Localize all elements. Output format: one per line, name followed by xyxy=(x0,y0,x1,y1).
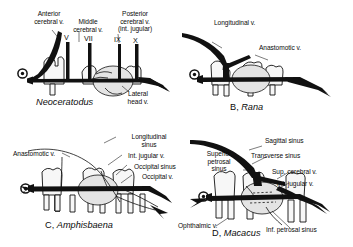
label-internal-jugular-vein-d: Int. jugular v. xyxy=(277,180,314,188)
panel-d-caption-taxon: Macacus xyxy=(224,228,261,238)
panel-d-caption: D, Macacus xyxy=(212,228,261,238)
panel-d-caption-prefix: D, xyxy=(212,228,224,238)
label-superior-cerebral-vein: Sup. cerebral v. xyxy=(272,168,317,176)
panel-b-caption: B, Rana xyxy=(230,102,263,112)
label-internal-jugular-vein-c: Int. jugular v. xyxy=(128,152,165,160)
panel-c-caption-taxon: Amphisbaena xyxy=(57,220,113,230)
nerve-label-x: X xyxy=(133,36,138,45)
label-transverse-sinus: Transverse sinus xyxy=(251,152,300,160)
label-anastomotic-vein-c: Anastomotic v. xyxy=(13,150,55,158)
label-sagittal-sinus: Sagittal sinus xyxy=(265,137,304,145)
label-superior-petrosal-sinus: Superior petrosal sinus xyxy=(196,150,242,173)
panel-a-caption-taxon: Neoceratodus xyxy=(36,97,93,107)
label-posterior-cerebral-vein: Posterior cerebral v. (int. jugular) xyxy=(104,10,166,33)
label-lateral-head-vein: Lateral head v. xyxy=(120,90,156,105)
panel-c-caption-prefix: C, xyxy=(45,220,57,230)
panel-a-caption: Neoceratodus xyxy=(36,97,93,107)
eye-symbol-a xyxy=(18,69,27,78)
comparative-venous-anatomy-figure: .ink{fill:#111111;} .out{fill:#f7f7f7;st… xyxy=(0,0,353,247)
panel-b-caption-taxon: Rana xyxy=(241,102,263,112)
label-anastomotic-vein: Anastomotic v. xyxy=(259,44,301,52)
nerve-label-v: V xyxy=(64,33,69,42)
label-occipital-vein: Occipital v. xyxy=(142,173,173,181)
panel-a-artwork xyxy=(18,30,170,96)
nerve-label-ix: IX xyxy=(114,35,121,44)
label-occipital-sinus: Occipital sinus xyxy=(134,163,176,171)
panel-b-artwork xyxy=(182,33,331,97)
label-inferior-petrosal-sinus: Inf. petrosal sinus xyxy=(266,226,317,234)
nerve-label-vii: VII xyxy=(84,34,93,43)
label-longitudinal-sinus: Longitudinal sinus xyxy=(120,133,178,148)
figure-artwork: .ink{fill:#111111;} .out{fill:#f7f7f7;st… xyxy=(0,0,353,247)
panel-c-caption: C, Amphisbaena xyxy=(45,220,113,230)
panel-b-caption-prefix: B, xyxy=(230,102,241,112)
label-longitudinal-vein: Longitudinal v. xyxy=(214,19,255,27)
